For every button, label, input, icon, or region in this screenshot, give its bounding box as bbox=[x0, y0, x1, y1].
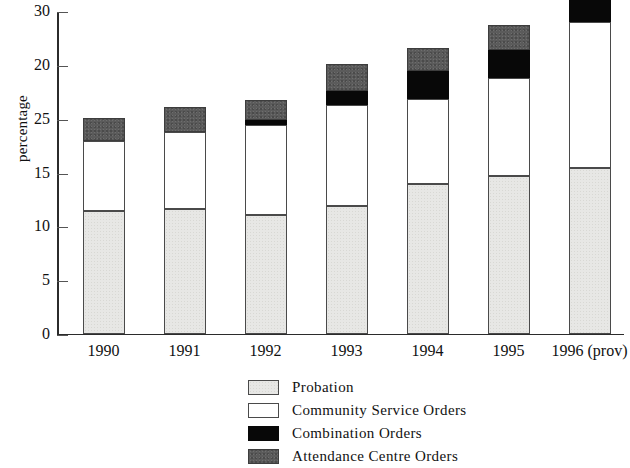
y-tick: 0 bbox=[57, 335, 68, 336]
y-tick: 30 bbox=[57, 12, 68, 13]
legend-item-aco[interactable]: Attendance Centre Orders bbox=[248, 445, 588, 467]
bar-segment-aco[interactable] bbox=[245, 100, 287, 120]
x-axis-line bbox=[57, 334, 624, 336]
bar-1996-prov-[interactable] bbox=[569, 0, 611, 334]
bar-segment-aco[interactable] bbox=[83, 118, 125, 141]
legend-swatch-probation bbox=[248, 380, 279, 395]
y-tick: 15 bbox=[57, 174, 68, 175]
bar-segment-aco[interactable] bbox=[326, 64, 368, 91]
bar-segment-probation[interactable] bbox=[326, 206, 368, 333]
bar-segment-aco[interactable] bbox=[488, 25, 530, 51]
y-tick: 10 bbox=[57, 227, 68, 228]
bar-segment-cso[interactable] bbox=[569, 22, 611, 167]
bar-segment-comb[interactable] bbox=[326, 91, 368, 105]
bar-1990[interactable] bbox=[83, 118, 125, 333]
y-tick-label: 20 bbox=[34, 55, 50, 75]
bar-segment-cso[interactable] bbox=[164, 132, 206, 208]
y-tick-label: 25 bbox=[34, 109, 50, 129]
bar-segment-probation[interactable] bbox=[164, 209, 206, 334]
legend-item-probation[interactable]: Probation bbox=[248, 376, 588, 398]
legend-swatch-aco bbox=[248, 449, 279, 464]
legend-label: Attendance Centre Orders bbox=[292, 447, 458, 465]
legend-label: Combination Orders bbox=[292, 424, 422, 442]
chart-legend: ProbationCommunity Service OrdersCombina… bbox=[248, 376, 588, 468]
stacked-bar-chart: percentage 302025151050 1990199119921993… bbox=[0, 0, 630, 468]
bar-segment-aco[interactable] bbox=[407, 48, 449, 71]
legend-swatch-cso bbox=[248, 403, 279, 418]
y-axis-title: percentage bbox=[14, 59, 31, 199]
bar-segment-comb[interactable] bbox=[245, 120, 287, 124]
bar-1994[interactable] bbox=[407, 48, 449, 333]
bar-segment-cso[interactable] bbox=[245, 125, 287, 215]
y-tick: 25 bbox=[57, 120, 68, 121]
bar-segment-comb[interactable] bbox=[569, 0, 611, 22]
plot-area: 302025151050 bbox=[57, 12, 624, 335]
bar-segment-aco[interactable] bbox=[164, 107, 206, 132]
bar-segment-comb[interactable] bbox=[407, 71, 449, 99]
y-tick-label: 5 bbox=[42, 270, 50, 290]
bar-segment-cso[interactable] bbox=[407, 99, 449, 184]
legend-item-cso[interactable]: Community Service Orders bbox=[248, 399, 588, 421]
legend-label: Probation bbox=[292, 378, 354, 396]
bar-segment-comb[interactable] bbox=[488, 50, 530, 78]
bar-1991[interactable] bbox=[164, 107, 206, 333]
x-tick-label: 1996 (prov) bbox=[530, 341, 630, 361]
y-tick-label: 10 bbox=[34, 216, 50, 236]
bar-segment-probation[interactable] bbox=[407, 184, 449, 334]
legend-item-comb[interactable]: Combination Orders bbox=[248, 422, 588, 444]
bar-segment-probation[interactable] bbox=[83, 211, 125, 334]
legend-label: Community Service Orders bbox=[292, 401, 467, 419]
bar-segment-cso[interactable] bbox=[326, 105, 368, 206]
y-tick: 20 bbox=[57, 66, 68, 67]
y-tick: 5 bbox=[57, 281, 68, 282]
bar-1992[interactable] bbox=[245, 100, 287, 334]
bar-segment-cso[interactable] bbox=[83, 141, 125, 211]
bar-1993[interactable] bbox=[326, 64, 368, 333]
y-tick-label: 15 bbox=[34, 163, 50, 183]
bar-segment-probation[interactable] bbox=[488, 176, 530, 333]
bar-segment-probation[interactable] bbox=[569, 168, 611, 334]
legend-swatch-comb bbox=[248, 426, 279, 441]
bar-segment-cso[interactable] bbox=[488, 78, 530, 176]
bar-segment-probation[interactable] bbox=[245, 215, 287, 333]
bar-1995[interactable] bbox=[488, 25, 530, 334]
y-tick-label: 30 bbox=[34, 1, 50, 21]
